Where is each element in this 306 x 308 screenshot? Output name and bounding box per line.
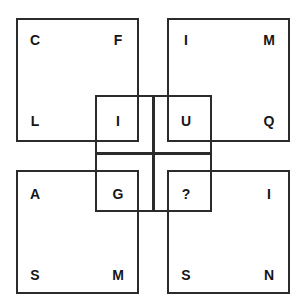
letter-top-left-square-top-right: F xyxy=(110,32,126,48)
letter-top-left-square-bottom-right: I xyxy=(110,113,126,129)
letter-top-right-square-top-left: I xyxy=(178,32,194,48)
letter-bottom-right-square-bottom-right: N xyxy=(261,267,277,283)
letter-top-left-square-bottom-left: L xyxy=(27,113,43,129)
letter-top-right-square-bottom-right: Q xyxy=(261,113,277,129)
letter-bottom-right-square-top-left-missing: ? xyxy=(178,186,194,202)
small-square-center-bottom-left xyxy=(95,153,154,212)
small-square-center-bottom-right xyxy=(153,153,212,212)
letter-top-right-square-bottom-left: U xyxy=(178,113,194,129)
letter-bottom-left-square-bottom-left: S xyxy=(27,267,43,283)
letter-bottom-left-square-bottom-right: M xyxy=(110,267,126,283)
letter-bottom-left-square-top-left: A xyxy=(27,186,43,202)
letter-top-left-square-top-left: C xyxy=(27,32,43,48)
letter-bottom-right-square-bottom-left: S xyxy=(178,267,194,283)
puzzle-canvas: C F L I I M U Q A G S M ? I S N xyxy=(0,0,306,308)
letter-bottom-left-square-top-right: G xyxy=(110,186,126,202)
letter-bottom-right-square-top-right: I xyxy=(261,186,277,202)
letter-top-right-square-top-right: M xyxy=(261,32,277,48)
